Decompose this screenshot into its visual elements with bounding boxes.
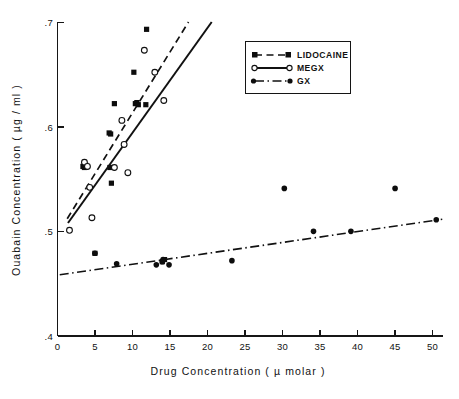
data-point — [131, 70, 136, 75]
data-point — [166, 262, 172, 268]
data-point — [229, 258, 235, 264]
data-point — [125, 170, 131, 176]
series-gx — [60, 186, 443, 275]
data-point — [67, 227, 73, 233]
series-lidocaine — [67, 22, 188, 264]
fit-line-lidocaine — [67, 22, 188, 219]
data-point — [144, 27, 149, 32]
data-point — [114, 261, 120, 267]
y-ticklabel-0.5: .5 — [44, 226, 53, 237]
data-point — [143, 102, 148, 107]
data-point — [161, 98, 167, 104]
x-ticklabel-40: 40 — [352, 341, 363, 352]
x-ticklabel-0: 0 — [55, 341, 61, 352]
legend-marker-circle-left — [252, 65, 257, 70]
y-ticklabel-0.4: .4 — [44, 331, 53, 342]
x-ticks-group: 0 5 10 15 20 25 30 35 40 45 50 — [55, 330, 438, 353]
y-axis-title: Ouabain Concentration ( µg / ml ) — [10, 84, 22, 276]
legend-label-gx: GX — [297, 76, 310, 86]
data-point — [152, 69, 158, 75]
legend-label-lidocaine: LIDOCAINE — [297, 50, 348, 60]
legend-marker-circle-right — [287, 65, 292, 70]
data-point — [348, 229, 354, 235]
y-ticklabel-0.7: .7 — [44, 17, 53, 28]
data-point — [121, 142, 127, 148]
data-point — [154, 262, 160, 268]
series-megx — [67, 22, 212, 233]
x-ticklabel-45: 45 — [389, 341, 400, 352]
data-point — [112, 101, 117, 106]
x-ticklabel-30: 30 — [277, 341, 288, 352]
legend-marker-square-left — [252, 52, 258, 58]
data-point — [111, 165, 117, 171]
legend-marker-dot-right — [287, 78, 292, 83]
data-point — [433, 217, 439, 223]
x-ticklabel-25: 25 — [239, 341, 250, 352]
legend-label-megx: MEGX — [297, 63, 324, 73]
x-ticklabel-5: 5 — [92, 341, 98, 352]
legend-marker-square-right — [286, 52, 292, 58]
data-point — [109, 181, 114, 186]
data-point — [92, 251, 98, 257]
x-axis-title: Drug Concentration ( µ molar ) — [150, 365, 325, 377]
data-point — [87, 184, 93, 190]
data-point — [282, 186, 288, 192]
data-point — [108, 131, 113, 136]
scatter-plot: .7 .6 .5 .4 0 5 10 15 20 25 30 35 — [0, 0, 459, 399]
legend[interactable]: LIDOCAINE MEGX GX — [246, 42, 351, 94]
data-point — [311, 229, 317, 235]
x-ticklabel-50: 50 — [427, 341, 438, 352]
y-ticklabel-0.6: .6 — [44, 122, 53, 133]
data-point — [392, 186, 398, 192]
data-point — [160, 257, 166, 263]
x-ticklabel-20: 20 — [202, 341, 213, 352]
data-point — [136, 102, 141, 107]
figure-container: .7 .6 .5 .4 0 5 10 15 20 25 30 35 — [0, 0, 459, 399]
fit-line-megx — [68, 22, 212, 223]
data-point — [119, 117, 125, 123]
x-ticklabel-15: 15 — [164, 341, 175, 352]
legend-marker-dot-left — [251, 78, 256, 83]
data-point — [85, 164, 91, 170]
y-ticks-group: .7 .6 .5 .4 — [44, 17, 64, 342]
data-point — [141, 47, 147, 53]
x-ticklabel-35: 35 — [314, 341, 325, 352]
data-point — [89, 215, 95, 221]
x-ticklabel-10: 10 — [127, 341, 138, 352]
